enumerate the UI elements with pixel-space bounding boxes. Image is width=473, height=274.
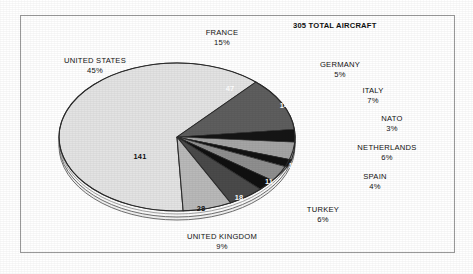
slice-value-italy: 20 [305, 117, 314, 126]
label-nato: NATO 3% [365, 114, 419, 133]
label-turkey: TURKEY 6% [293, 205, 353, 224]
label-france-percent: 15% [186, 38, 258, 48]
label-united-states: UNITED STATES 45% [49, 56, 141, 75]
label-united-kingdom: UNITED KINGDOM 9% [167, 232, 277, 251]
slice-value-germany: 14 [280, 101, 289, 110]
total-aircraft-caption: 305 TOTAL AIRCRAFT [293, 21, 376, 30]
label-united-states-percent: 45% [49, 66, 141, 76]
label-united-kingdom-percent: 9% [167, 242, 277, 252]
label-united-states-name: UNITED STATES [49, 56, 141, 66]
page-top-bleed: ........ .... ... ... . .... ....... ...… [0, 0, 473, 9]
label-nato-name: NATO [365, 114, 419, 124]
label-netherlands-percent: 6% [338, 153, 436, 163]
label-spain: SPAIN 4% [346, 172, 404, 191]
label-spain-name: SPAIN [346, 172, 404, 182]
label-italy: ITALY 7% [346, 86, 400, 105]
slice-value-nato: 8 [304, 140, 308, 149]
slice-value-united-kingdom: 28 [197, 204, 206, 213]
label-germany-name: GERMANY [304, 60, 376, 70]
slice-value-spain: 11 [265, 177, 273, 186]
cut-off-text-line: ........ .... ... ... . .... ....... ...… [44, 0, 444, 2]
label-spain-percent: 4% [346, 182, 404, 192]
label-turkey-name: TURKEY [293, 205, 353, 215]
label-france: FRANCE 15% [186, 28, 258, 47]
pie-chart: 305 TOTAL AIRCRAFT [21, 16, 456, 254]
label-netherlands: NETHERLANDS 6% [338, 143, 436, 162]
label-netherlands-name: NETHERLANDS [338, 143, 436, 153]
slice-value-netherlands: 18 [289, 161, 298, 170]
pie-slices [59, 63, 295, 211]
label-france-name: FRANCE [186, 28, 258, 38]
label-italy-name: ITALY [346, 86, 400, 96]
label-united-kingdom-name: UNITED KINGDOM [167, 232, 277, 242]
label-germany: GERMANY 5% [304, 60, 376, 79]
slice-value-turkey: 18 [235, 193, 244, 202]
label-nato-percent: 3% [365, 124, 419, 134]
figure-frame: 305 TOTAL AIRCRAFT [20, 15, 455, 253]
slice-value-france: 47 [226, 84, 235, 93]
slice-value-united-states: 141 [134, 152, 147, 161]
label-turkey-percent: 6% [293, 215, 353, 225]
label-italy-percent: 7% [346, 96, 400, 106]
label-germany-percent: 5% [304, 70, 376, 80]
